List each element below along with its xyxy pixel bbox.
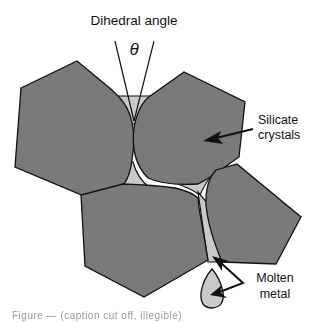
figure-caption: Figure — (caption cut off, illegible) (12, 310, 312, 322)
lower-center-crystal (81, 184, 208, 297)
theta-symbol: θ (129, 40, 139, 59)
lower-right-crystal (206, 164, 301, 264)
molten-metal-label-line1: Molten (256, 271, 294, 285)
molten-metal-label-line2: metal (260, 287, 291, 301)
dihedral-angle-label: Dihedral angle (90, 13, 177, 28)
upper-left-crystal (15, 61, 134, 196)
dihedral-angle-diagram: Dihedral angle θ Silicate crystals Molte… (0, 0, 322, 322)
silicate-crystals-label-line1: Silicate (258, 113, 298, 127)
silicate-crystals-label-line2: crystals (258, 128, 300, 142)
